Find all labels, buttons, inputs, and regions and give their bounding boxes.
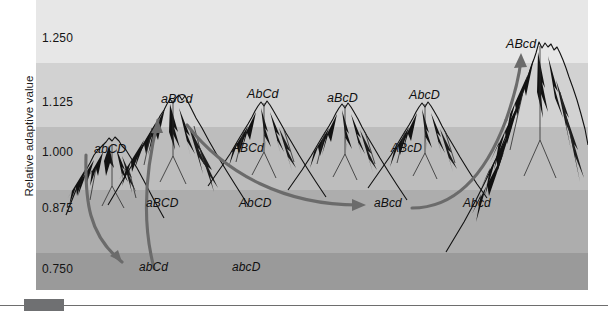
peak-AbCd (208, 101, 326, 197)
adaptive-landscape-figure: Relative adaptive value .rdg{fill:none;s… (0, 0, 608, 313)
arrow-abCD-to-abCd (86, 155, 122, 262)
trajectory-arrows (86, 53, 527, 268)
y-tick-1125: 1.125 (42, 95, 73, 109)
y-tick-1250: 1.250 (42, 31, 73, 45)
label-AbcD: AbcD (409, 88, 440, 102)
footer-divider (0, 305, 608, 306)
y-tick-0750: 0.750 (42, 262, 73, 276)
label-ABcD: ABcD (391, 141, 422, 155)
peak-aBCd (108, 95, 248, 205)
label-AbCd: AbCd (247, 87, 279, 101)
plot-area: .rdg{fill:none;stroke:#111;stroke-width:… (36, 0, 588, 290)
label-aBcD: aBcD (327, 91, 358, 105)
label-aBCd: aBCd (161, 92, 193, 106)
label-abcD: abcD (232, 260, 260, 274)
label-aBcd: aBcd (374, 196, 402, 210)
y-tick-1000: 1.000 (42, 145, 73, 159)
label-Abcd: Abcd (463, 196, 491, 210)
footer-color-swatch (24, 299, 64, 311)
y-tick-0875: 0.875 (42, 201, 73, 215)
arrow-aBCd-to-aBcd (187, 125, 358, 205)
label-abCD: abCD (94, 142, 126, 156)
peak-aBcD (288, 103, 407, 200)
label-ABCd: ABCd (232, 141, 264, 155)
label-ABcd: ABcd (506, 37, 536, 51)
label-AbCD: AbCD (239, 196, 271, 210)
label-abCd: abCd (139, 260, 168, 274)
label-aBCD: aBCD (146, 196, 178, 210)
peak-ABcd (446, 42, 588, 252)
y-axis-title: Relative adaptive value (23, 11, 35, 261)
